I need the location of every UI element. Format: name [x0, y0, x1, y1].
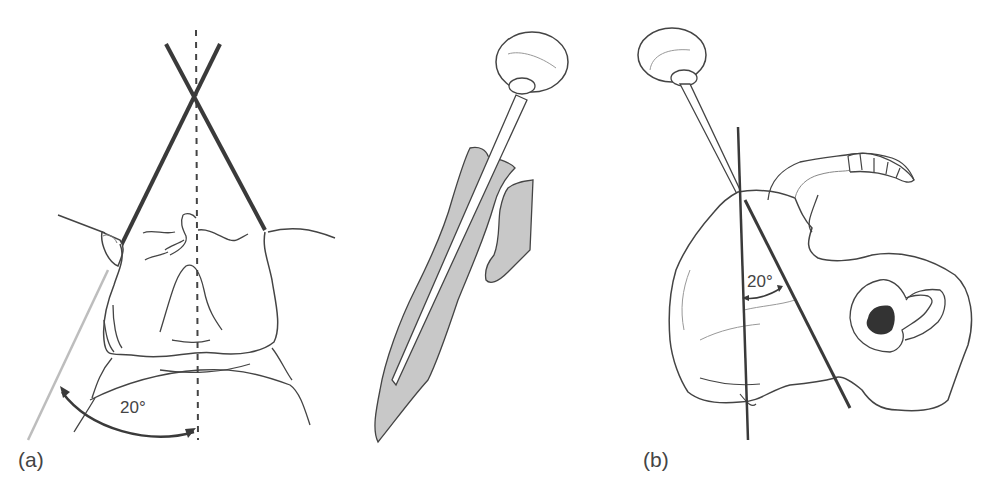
awl-shaft-b [680, 84, 742, 196]
bone-channel-shade [375, 147, 515, 442]
panel-a-drawing [28, 30, 335, 440]
panel-label-b: (b) [643, 448, 669, 472]
angle-label-a: 20° [120, 398, 146, 418]
panel-middle-drawing [375, 32, 568, 442]
angle-label-b: 20° [747, 272, 773, 292]
figure-canvas [0, 0, 997, 493]
trajectory-line [28, 270, 108, 440]
guide-wire-right [166, 44, 265, 230]
guide-wire-left [115, 44, 220, 258]
panel-label-a: (a) [18, 448, 44, 472]
panel-b-drawing [638, 28, 972, 440]
